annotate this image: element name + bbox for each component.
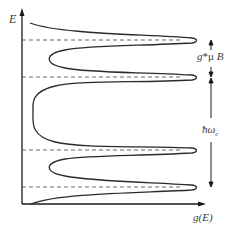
arrow-down-icon — [209, 182, 213, 187]
x-axis-label: g(E) — [193, 212, 213, 223]
level-dashed-lines — [22, 40, 180, 187]
cyclotron-label-sub: c — [215, 130, 218, 138]
zeeman-label: g*μ B — [197, 51, 223, 62]
dos-diagram — [0, 0, 234, 240]
zeeman-label-b: B — [217, 50, 224, 62]
cyclotron-label: ħωc — [202, 124, 218, 138]
x-axis-arrow-icon — [198, 202, 206, 207]
cyclotron-label-main: ħω — [202, 123, 215, 135]
y-axis-label: E — [9, 13, 16, 25]
arrow-up-icon — [209, 40, 213, 45]
dos-curve — [30, 23, 197, 204]
y-axis-arrow-icon — [20, 8, 25, 16]
arrow-down-icon — [209, 72, 213, 77]
zeeman-label-mu: *μ — [203, 50, 217, 62]
axes — [22, 14, 200, 204]
arrow-up-icon — [209, 78, 213, 83]
